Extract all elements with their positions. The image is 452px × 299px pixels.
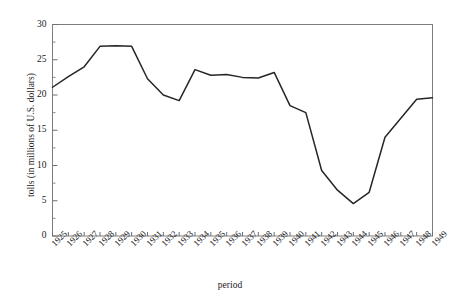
y-tick-label: 30 [21,20,47,30]
data-line-tolls [53,46,433,204]
y-tick-label: 10 [21,161,47,171]
axis-frame [53,25,433,237]
y-tick-label: 25 [21,55,47,65]
y-tick-label: 0 [21,231,47,241]
y-major-ticks [53,25,58,237]
y-tick-label: 20 [21,90,47,100]
y-tick-label: 5 [21,196,47,206]
y-tick-label: 15 [21,125,47,135]
